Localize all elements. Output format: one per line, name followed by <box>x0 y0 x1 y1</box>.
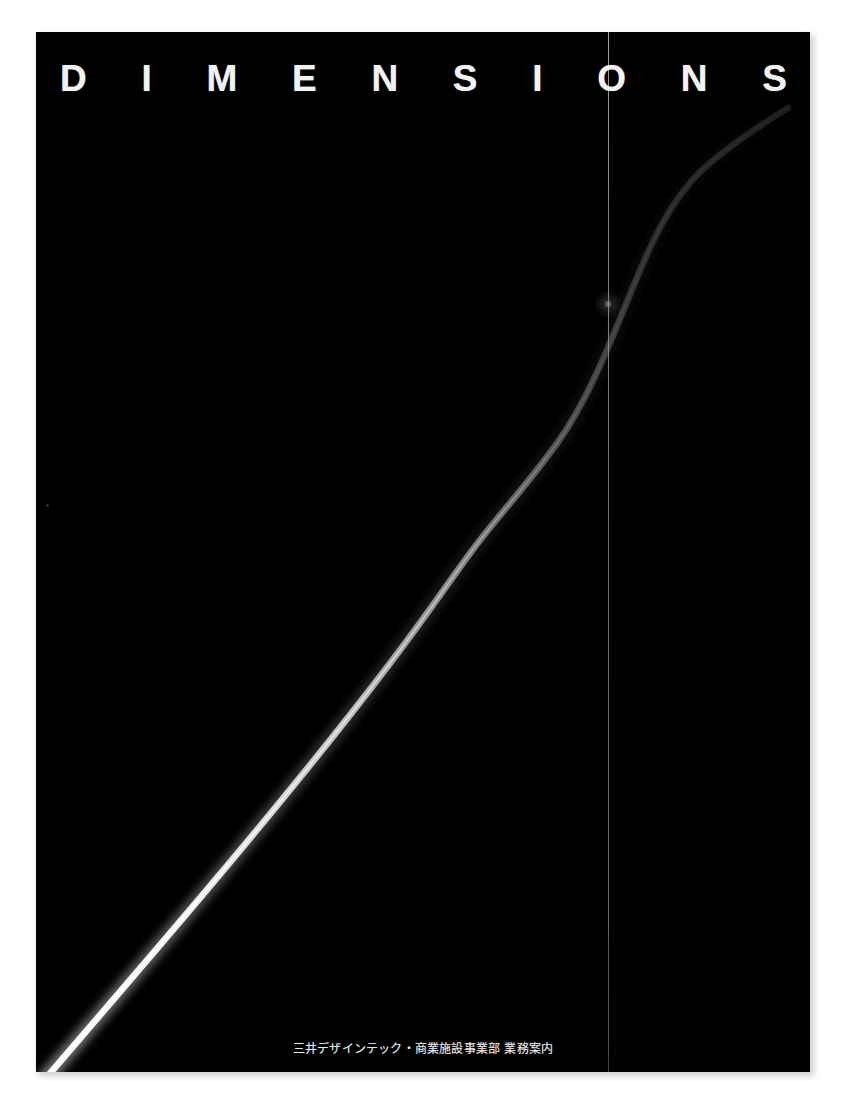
title-letter-7: I <box>532 60 542 97</box>
title-letter-9: N <box>681 60 708 97</box>
title-letter-10: S <box>762 60 787 97</box>
growth-curve-graphic <box>36 32 810 1072</box>
caption: 三井デザインテック・商業施設事業部 業務案内 <box>36 1039 810 1057</box>
title-letter-5: N <box>371 60 398 97</box>
caption-text: 三井デザインテック・商業施設事業部 業務案内 <box>293 1039 553 1056</box>
title-letter-6: S <box>453 60 478 97</box>
poster-canvas: D I M E N S I O N S 三井デザインテック・商業施設事業部 業務… <box>0 0 843 1113</box>
title-letter-8: O <box>597 60 626 97</box>
title-letter-3: M <box>206 60 237 97</box>
vertical-rule <box>608 32 609 1072</box>
title-letter-4: E <box>292 60 317 97</box>
poster-panel: D I M E N S I O N S 三井デザインテック・商業施設事業部 業務… <box>36 32 810 1072</box>
title-letter-2: I <box>141 60 151 97</box>
page-title: D I M E N S I O N S <box>36 32 810 124</box>
title-letter-1: D <box>60 60 87 97</box>
